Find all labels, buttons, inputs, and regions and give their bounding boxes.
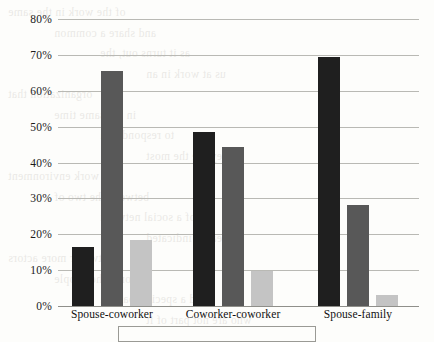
y-axis-tick-label: 30% (30, 192, 52, 204)
y-axis-tick-label: 70% (30, 49, 52, 61)
bar (222, 147, 244, 306)
bar (101, 71, 123, 306)
y-axis-tick-label: 50% (30, 121, 52, 133)
bar (347, 205, 369, 307)
axis-baseline (58, 306, 419, 307)
y-axis-tick-labels: 0%10%20%30%40%50%60%70%80% (0, 19, 52, 306)
y-axis-tick-label: 0% (36, 300, 52, 312)
y-axis-tick-label: 10% (30, 264, 52, 276)
legend-box (118, 326, 316, 342)
background-text-line: of the work in the same (8, 6, 125, 18)
y-axis-tick-label: 60% (30, 85, 52, 97)
bar (130, 240, 152, 306)
bar (251, 271, 273, 306)
bar (376, 295, 398, 306)
x-axis-category-label: Spouse-family (324, 308, 392, 320)
y-axis-tick-label: 20% (30, 228, 52, 240)
plot-area (58, 19, 419, 306)
y-axis-tick-label: 40% (30, 157, 52, 169)
x-axis-category-label: Coworker-coworker (186, 308, 281, 320)
bar-series-group (58, 19, 419, 306)
bar (193, 132, 215, 306)
x-axis-category-labels: Spouse-coworkerCoworker-coworkerSpouse-f… (58, 308, 419, 324)
bar (72, 247, 94, 306)
x-axis-category-label: Spouse-coworker (71, 308, 153, 320)
bar (318, 57, 340, 306)
y-axis-tick-label: 80% (30, 13, 52, 25)
